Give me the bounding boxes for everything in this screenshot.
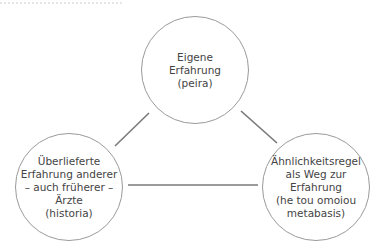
node-peira: Eigene Erfahrung (peira) [141,16,249,124]
node-historia-label: Überlieferte Erfahrung anderer – auch fr… [17,155,121,220]
node-metabasis-label: Ähnlichkeitsregel als Weg zur Erfahrung … [267,155,365,220]
edge-peira-metabasis [241,111,277,143]
node-metabasis: Ähnlichkeitsregel als Weg zur Erfahrung … [262,133,370,241]
edge-peira-historia [115,113,149,146]
node-historia: Überlieferte Erfahrung anderer – auch fr… [15,133,123,241]
node-peira-label: Eigene Erfahrung (peira) [165,51,225,90]
